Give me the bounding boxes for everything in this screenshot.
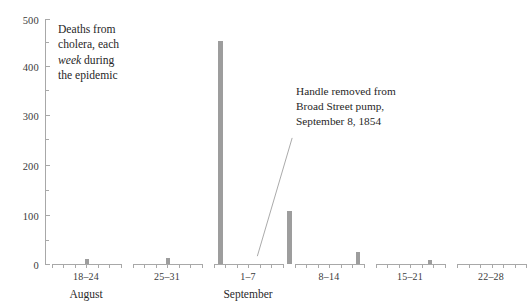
x-day-tick <box>237 264 238 268</box>
title-note-line-1: Deaths from <box>58 22 178 37</box>
x-day-tick <box>86 264 87 268</box>
annotation-leader-line <box>250 125 305 270</box>
y-tick-150 <box>45 190 49 191</box>
x-day-tick <box>63 264 64 268</box>
chart-title-note: Deaths from cholera, each week during th… <box>58 22 178 84</box>
x-day-tick <box>410 264 411 268</box>
title-note-line-2: cholera, each <box>58 37 178 52</box>
bar-sep-8-14 <box>287 211 292 264</box>
y-minor-tick <box>45 215 50 216</box>
y-tick-300: 300 <box>45 115 50 116</box>
y-tick-200: 200 <box>45 165 50 166</box>
y-tick-400: 400 <box>45 66 50 67</box>
x-day-tick <box>75 264 76 268</box>
bar-aug-18-24 <box>85 259 89 264</box>
x-day-tick <box>248 264 249 268</box>
x-day-tick <box>144 264 145 268</box>
x-week-label-4: 8–14 <box>289 271 369 282</box>
x-month-label-september: September <box>208 288 288 300</box>
x-week-label-3: 1–7 <box>208 271 288 282</box>
y-tick-500: 500 <box>45 19 50 20</box>
y-minor-tick <box>45 66 50 67</box>
y-tick-50 <box>45 240 49 241</box>
y-tick-label-100: 100 <box>23 210 39 221</box>
x-day-tick <box>399 264 400 268</box>
x-day-tick <box>98 264 99 268</box>
x-day-tick <box>422 264 423 268</box>
y-tick-0: 0 <box>45 264 50 265</box>
title-note-line-3: week during <box>58 53 178 68</box>
bar-sep-22-28 <box>428 260 432 264</box>
x-day-tick <box>271 264 272 268</box>
x-day-tick <box>526 264 527 268</box>
callout-line-2: Broad Street pump, <box>296 99 431 114</box>
x-day-tick <box>364 264 365 268</box>
x-week-label-1: 18–24 <box>46 271 126 282</box>
x-week-label-6: 22–28 <box>451 271 531 282</box>
x-day-tick <box>445 264 446 268</box>
x-day-tick <box>52 264 53 268</box>
x-day-tick <box>133 264 134 268</box>
y-tick-label-500: 500 <box>23 14 39 25</box>
y-axis-line <box>45 19 46 264</box>
x-day-tick <box>318 264 319 268</box>
pump-handle-annotation: Handle removed from Broad Street pump, S… <box>296 84 431 129</box>
x-day-tick <box>329 264 330 268</box>
x-day-tick <box>503 264 504 268</box>
x-day-tick <box>260 264 261 268</box>
x-day-tick <box>167 264 168 268</box>
bar-sep-15-21 <box>356 252 360 264</box>
bar-sep-1-7 <box>218 41 223 264</box>
x-day-tick <box>492 264 493 268</box>
x-week-label-5: 15–21 <box>370 271 450 282</box>
title-note-line-3-rest: during <box>81 54 114 67</box>
x-day-tick <box>109 264 110 268</box>
x-day-tick <box>480 264 481 268</box>
y-tick-label-300: 300 <box>23 110 39 121</box>
y-tick-250 <box>45 139 49 140</box>
x-day-tick <box>341 264 342 268</box>
bar-aug-25-31 <box>166 258 170 264</box>
x-day-tick <box>156 264 157 268</box>
x-day-tick <box>306 264 307 268</box>
x-day-tick <box>387 264 388 268</box>
y-tick-label-0: 0 <box>34 259 39 270</box>
y-minor-tick <box>45 19 50 20</box>
y-minor-tick <box>45 115 50 116</box>
x-week-label-2: 25–31 <box>127 271 207 282</box>
y-tick-label-400: 400 <box>23 61 39 72</box>
x-day-tick <box>433 264 434 268</box>
x-day-tick <box>190 264 191 268</box>
y-minor-tick <box>45 165 50 166</box>
x-day-tick <box>376 264 377 268</box>
y-minor-tick <box>45 264 50 265</box>
x-day-tick <box>457 264 458 268</box>
x-day-tick <box>179 264 180 268</box>
y-tick-label-200: 200 <box>23 160 39 171</box>
callout-line-1: Handle removed from <box>296 84 431 99</box>
x-day-tick <box>515 264 516 268</box>
y-tick-450 <box>45 42 49 43</box>
x-day-tick <box>202 264 203 268</box>
x-day-tick <box>469 264 470 268</box>
y-tick-350 <box>45 90 49 91</box>
title-note-italic-week: week <box>58 54 81 67</box>
y-tick-100: 100 <box>45 215 50 216</box>
x-month-label-august: August <box>46 288 126 300</box>
x-day-tick <box>295 264 296 268</box>
x-day-tick <box>283 264 284 268</box>
callout-line-3: September 8, 1854 <box>296 114 431 129</box>
x-day-tick <box>214 264 215 268</box>
x-day-tick <box>225 264 226 268</box>
title-note-line-4: the epidemic <box>58 68 178 83</box>
x-day-tick <box>121 264 122 268</box>
x-day-tick <box>352 264 353 268</box>
